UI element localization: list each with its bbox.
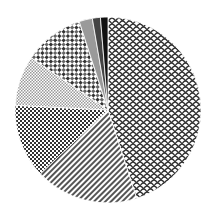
pie-chart [0, 0, 216, 220]
pie-slices [15, 17, 201, 203]
